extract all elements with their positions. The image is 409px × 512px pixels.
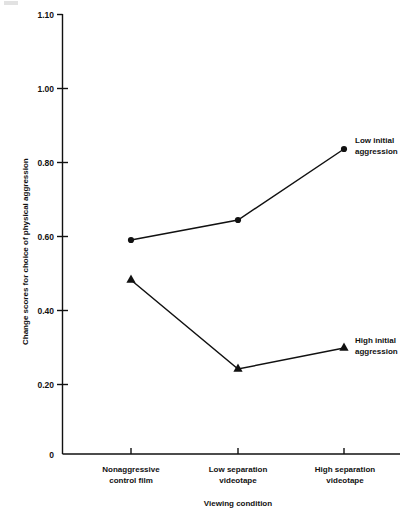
data-point-high-1 [126,275,135,283]
y-axis-title: Change scores for choice of physical agg… [21,158,30,345]
x-category-label-2-line2: videotape [219,476,257,485]
data-point-low-1 [128,237,134,243]
y-tick-label-110: 1.10 [37,10,54,20]
y-tick-label-060: 0.60 [37,232,54,242]
x-category-label-1-line2: control film [109,476,153,485]
y-tick-label-040: 0.40 [37,306,54,316]
x-category-label-3-line1: High separation [315,465,376,474]
x-category-label-2-line1: Low separation [209,465,268,474]
series-label-low-line2: aggression [355,147,398,156]
series-label-low-line1: Low initial [355,136,394,145]
data-point-low-2 [235,217,241,223]
y-tick-label-080: 0.80 [37,158,54,168]
series-line-high-initial-aggression [131,280,344,369]
data-point-high-3 [339,343,348,351]
series-line-low-initial-aggression [131,149,344,240]
data-point-low-3 [341,146,347,152]
y-tick-label-0: 0 [49,450,54,460]
line-chart: 1.10 1.00 0.80 0.60 0.40 0.20 0 Change s… [0,0,409,512]
x-category-label-1-line1: Nonaggressive [102,465,160,474]
series-label-high-line1: High initial [355,336,396,345]
x-axis-title: Viewing condition [204,499,272,508]
x-category-label-3-line2: videotape [326,476,364,485]
y-tick-label-100: 1.00 [37,84,54,94]
y-tick-label-020: 0.20 [37,380,54,390]
series-label-high-line2: aggression [355,347,398,356]
chart-container: 1.10 1.00 0.80 0.60 0.40 0.20 0 Change s… [0,0,409,512]
